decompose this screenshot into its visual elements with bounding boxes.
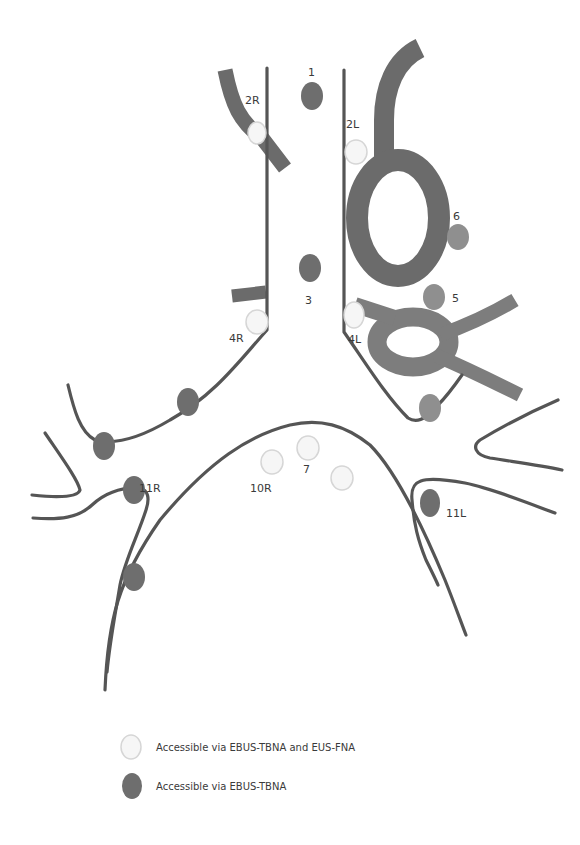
label-station-5: 5	[452, 292, 459, 305]
legend-label-ebus-and-eus: Accessible via EBUS-TBNA and EUS-FNA	[156, 742, 355, 753]
right-bronchus-upper-branch	[32, 433, 80, 497]
node-right-interlobar[interactable]	[123, 563, 145, 591]
label-station-6: 6	[453, 210, 460, 223]
node-station-2R[interactable]	[248, 122, 266, 144]
label-station-4L: 4L	[348, 333, 362, 346]
node-station-4R[interactable]	[246, 310, 268, 334]
node-right-hilar-upper[interactable]	[177, 388, 199, 416]
legend-label-ebus-only: Accessible via EBUS-TBNA	[156, 781, 286, 792]
node-station-11L[interactable]	[420, 489, 440, 517]
azygos-vessel	[232, 292, 266, 296]
right-upper-vessel	[225, 70, 285, 168]
label-station-1: 1	[308, 66, 315, 79]
aorta-upper	[384, 48, 420, 160]
pulmonary-artery-upper-branch	[440, 300, 515, 335]
node-right-hilar-lower[interactable]	[93, 432, 115, 460]
node-station-7[interactable]	[297, 436, 319, 460]
label-station-4R: 4R	[229, 332, 244, 345]
pulmonary-artery-lower-branch	[435, 355, 520, 395]
node-station-7-lower[interactable]	[331, 466, 353, 490]
node-station-3[interactable]	[299, 254, 321, 282]
left-bronchus-upper-branch	[476, 400, 562, 470]
vessels	[225, 48, 520, 395]
label-station-3: 3	[305, 294, 312, 307]
aortic-arch-ring	[357, 160, 439, 276]
lymph-node-diagram: 1 2R 2L 3 4R 4L 5 6 7 10R 11R 11L Access…	[0, 0, 580, 845]
node-station-6[interactable]	[447, 224, 469, 250]
label-station-10R: 10R	[250, 482, 272, 495]
legend-swatch-dark	[122, 773, 142, 799]
node-station-left-hilar[interactable]	[419, 394, 441, 422]
node-station-5[interactable]	[423, 284, 445, 310]
label-station-7: 7	[303, 463, 310, 476]
label-station-11R: 11R	[139, 482, 161, 495]
label-station-2L: 2L	[346, 118, 360, 131]
node-station-2L[interactable]	[345, 140, 367, 164]
legend: Accessible via EBUS-TBNA and EUS-FNA Acc…	[121, 735, 355, 799]
node-station-10R[interactable]	[261, 450, 283, 474]
legend-swatch-light	[121, 735, 141, 759]
label-station-2R: 2R	[245, 94, 260, 107]
label-station-11L: 11L	[446, 507, 467, 520]
carina	[105, 422, 466, 690]
node-station-4L[interactable]	[344, 302, 364, 328]
node-station-1[interactable]	[301, 82, 323, 110]
